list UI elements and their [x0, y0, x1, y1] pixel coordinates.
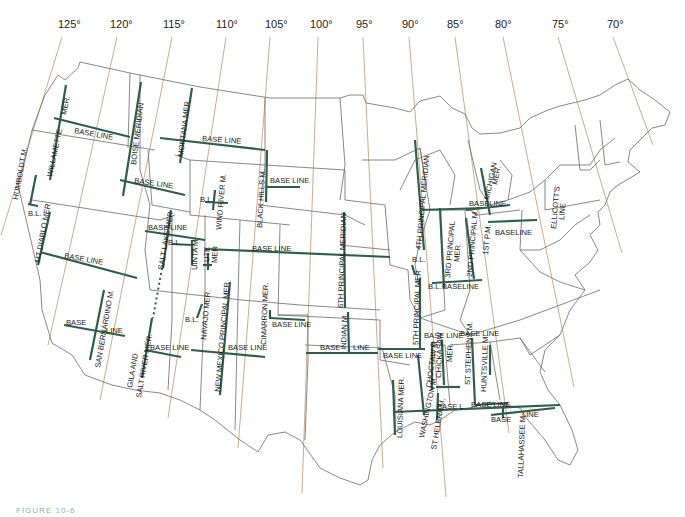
label-new-mexico: NEW MEXICO PRINCIPAL MER [213, 281, 232, 392]
label-ellicotts-line: LINE [557, 203, 567, 221]
label-cimarron: CIMARRON MER. [259, 282, 270, 345]
label-ute-mer: MER [210, 245, 220, 263]
longitude-label-125: 125° [58, 18, 81, 30]
label-first-pm: 1ST P.M. [481, 224, 493, 255]
longitude-label-75: 75° [552, 18, 569, 30]
label-chickasaw: CHICKASAW [434, 331, 445, 378]
label-bl-ca: B.L. [28, 209, 42, 218]
map-labels: HUMBOLDT M. WILLAMETTE MER. BASE LINE BO… [11, 95, 567, 478]
label-fl-base: BASE [491, 415, 511, 424]
label-humboldt: HUMBOLDT M. [11, 147, 29, 201]
label-bl-navajo: B.L. [185, 315, 199, 324]
label-oh-baseline: BASELINE [495, 228, 532, 237]
label-ar-base-line: BASE LINE [383, 351, 422, 360]
label-bl-wy: B.L. [200, 195, 214, 204]
principal-meridians-map: 125° 120° 115° 110° 105° 100° 95° 90° 85… [0, 0, 685, 517]
label-al-base-line: BASE LINE [471, 400, 510, 409]
longitude-label-110: 110° [216, 18, 238, 30]
label-ok-line: LINE [353, 343, 370, 352]
label-navajo: NAVAJO MER. [199, 289, 212, 340]
label-central-base-line: BASE LINE [252, 244, 291, 253]
longitude-label-70: 70° [607, 18, 624, 30]
label-chickasaw-mer: MER. [445, 343, 455, 362]
label-mi-baseline: BASELINE [469, 199, 506, 208]
label-st-stephens: ST STEPHENS M. [463, 322, 474, 385]
label-boise: BOISE MERIDIAN [129, 102, 146, 165]
label-huntsville: HUNTSVILLE M. [479, 334, 490, 392]
longitude-label-100: 100° [310, 18, 333, 30]
longitude-label-80: 80° [495, 18, 512, 30]
label-la-base-l: BASE L [437, 402, 464, 411]
figure-caption: FIGURE 10-6 [16, 506, 75, 515]
label-willamette: WILLAMETTE [45, 128, 64, 177]
label-louisiana: LOUISIANA MER. [395, 377, 406, 438]
longitude-labels: 125° 120° 115° 110° 105° 100° 95° 90° 85… [58, 18, 624, 30]
label-indian: INDIAN M. [339, 313, 349, 350]
longitude-label-115: 115° [163, 18, 185, 30]
label-uinta: UINTA M. [190, 237, 200, 270]
label-sd-base-line: BASE LINE [270, 176, 309, 185]
label-socal-base-line: BASE [66, 318, 86, 327]
label-in-baseline: BASELINE [442, 282, 479, 291]
label-willamette-mer: MER. [59, 95, 72, 115]
label-black-hills: BLACK HILLS M. [255, 169, 267, 228]
label-az-base-line: BASE LINE [150, 343, 189, 352]
label-bl-in: B.L. [428, 282, 442, 291]
label-sixth-pm: 6TH PRINCIPAL MERIDIAN [336, 213, 348, 308]
longitude-label-105: 105° [265, 18, 288, 30]
label-montana: MONTANA MER [176, 100, 192, 157]
longitude-label-120: 120° [110, 18, 133, 30]
label-ok-base: BASE [320, 343, 340, 352]
label-bl-il: B.L. [412, 255, 426, 264]
longitude-label-85: 85° [447, 18, 464, 30]
label-tallahassee: TALLAHASSEE M. [516, 414, 527, 478]
longitude-label-90: 90° [402, 18, 419, 30]
label-third-pm-mer: MER. [452, 242, 463, 262]
longitude-label-95: 95° [356, 18, 373, 30]
label-ok-panhandle-base-line: BASE LINE [272, 320, 311, 329]
